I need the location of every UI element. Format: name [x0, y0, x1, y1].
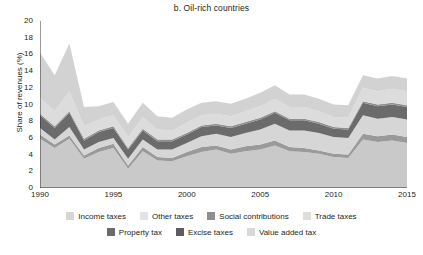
chart-title: b. Oil-rich countries	[0, 3, 423, 13]
legend-swatch-icon	[66, 212, 74, 220]
legend-row-primary: Income taxesOther taxesSocial contributi…	[0, 208, 423, 224]
legend-label: Excise taxes	[188, 228, 233, 237]
y-tick-6: 6	[11, 133, 33, 142]
legend-item-property-tax[interactable]: Property tax	[107, 228, 162, 237]
y-tick-10: 10	[11, 100, 33, 109]
legend-row-secondary: Property taxExcise taxesValue added tax	[0, 224, 423, 240]
y-tick-16: 16	[11, 49, 33, 58]
y-tick-14: 14	[11, 66, 33, 75]
y-tick-8: 8	[11, 116, 33, 125]
y-tick-4: 4	[11, 150, 33, 159]
legend-item-income-taxes[interactable]: Income taxes	[66, 212, 126, 221]
legend-label: Property tax	[119, 228, 162, 237]
legend-label: Income taxes	[78, 212, 126, 221]
legend-item-excise-taxes[interactable]: Excise taxes	[176, 228, 233, 237]
legend-swatch-icon	[207, 212, 215, 220]
legend-swatch-icon	[107, 228, 115, 236]
legend-item-value-added-tax[interactable]: Value added tax	[247, 228, 316, 237]
x-tick-2005: 2005	[242, 190, 278, 199]
stacked-area-plot	[40, 21, 407, 188]
x-tick-2010: 2010	[316, 190, 352, 199]
legend-label: Value added tax	[259, 228, 316, 237]
x-tick-1990: 1990	[22, 190, 58, 199]
legend-swatch-icon	[247, 228, 255, 236]
y-tick-12: 12	[11, 83, 33, 92]
legend-item-social-contributions[interactable]: Social contributions	[207, 212, 288, 221]
y-tick-20: 20	[11, 16, 33, 25]
legend-label: Social contributions	[219, 212, 288, 221]
plot-area	[40, 21, 407, 188]
legend-item-trade-taxes[interactable]: Trade taxes	[303, 212, 357, 221]
legend-label: Trade taxes	[315, 212, 357, 221]
chart-legend: Income taxesOther taxesSocial contributi…	[0, 208, 423, 240]
y-tick-2: 2	[11, 166, 33, 175]
legend-swatch-icon	[176, 228, 184, 236]
legend-swatch-icon	[140, 212, 148, 220]
legend-label: Other taxes	[152, 212, 193, 221]
legend-item-other-taxes[interactable]: Other taxes	[140, 212, 193, 221]
x-tick-2000: 2000	[169, 190, 205, 199]
chart-container: b. Oil-rich countries Share of revenues …	[0, 0, 423, 255]
y-tick-18: 18	[11, 33, 33, 42]
legend-swatch-icon	[303, 212, 311, 220]
x-tick-1995: 1995	[95, 190, 131, 199]
x-tick-2015: 2015	[389, 190, 423, 199]
